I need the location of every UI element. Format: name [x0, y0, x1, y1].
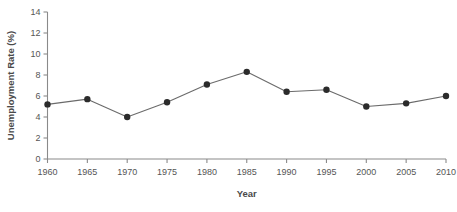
x-axis-tick-label: 1965 — [77, 167, 97, 177]
y-axis-tick-label: 4 — [35, 112, 40, 122]
unemployment-rate-line-chart: 0246810121419601965197019751980198519901… — [0, 0, 457, 212]
y-axis-tick-label: 2 — [35, 133, 40, 143]
data-point-marker — [84, 96, 90, 102]
x-axis-tick-label: 2010 — [436, 167, 456, 177]
y-axis-tick-label: 14 — [30, 7, 40, 17]
data-point-marker — [204, 81, 210, 87]
data-point-marker — [244, 69, 250, 75]
data-point-marker — [363, 103, 369, 109]
data-point-marker — [44, 101, 50, 107]
data-point-marker — [283, 89, 289, 95]
y-axis-tick-label: 8 — [35, 70, 40, 80]
data-point-marker — [443, 93, 449, 99]
data-point-marker — [124, 114, 130, 120]
x-axis-tick-label: 2000 — [356, 167, 376, 177]
x-axis-tick-label: 1980 — [197, 167, 217, 177]
x-axis-tick-label: 1970 — [117, 167, 137, 177]
data-point-marker — [164, 99, 170, 105]
y-axis-tick-label: 0 — [35, 154, 40, 164]
x-axis-tick-label: 1995 — [316, 167, 336, 177]
y-axis-tick-label: 6 — [35, 91, 40, 101]
data-series-line — [48, 72, 447, 117]
y-axis-title: Unemployment Rate (%) — [5, 31, 16, 140]
x-axis-title: Year — [237, 188, 257, 199]
x-axis-tick-label: 2005 — [396, 167, 416, 177]
data-point-marker — [403, 100, 409, 106]
x-axis-tick-label: 1960 — [37, 167, 57, 177]
y-axis-tick-label: 12 — [30, 28, 40, 38]
chart-canvas: 0246810121419601965197019751980198519901… — [0, 0, 457, 212]
x-axis-tick-label: 1985 — [237, 167, 257, 177]
x-axis-tick-label: 1990 — [277, 167, 297, 177]
data-point-marker — [323, 87, 329, 93]
x-axis-tick-label: 1975 — [157, 167, 177, 177]
y-axis-tick-label: 10 — [30, 49, 40, 59]
